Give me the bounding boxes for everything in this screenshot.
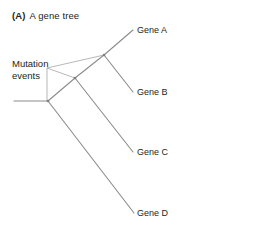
tree-diagram — [0, 0, 262, 233]
branch-n1-to-c — [75, 78, 133, 152]
branch-n2-to-b — [104, 55, 133, 92]
branch-n2-to-a — [104, 30, 133, 55]
branch-root-to-d — [48, 101, 134, 213]
root-node — [47, 100, 50, 103]
internal-node-2 — [103, 54, 106, 57]
leaf-label-gene-d: Gene D — [137, 208, 168, 219]
mutation-events-label: Mutation events — [12, 58, 48, 81]
branch-root-to-n1 — [48, 78, 75, 101]
leaf-label-gene-c: Gene C — [137, 147, 168, 158]
leaf-label-gene-a: Gene A — [137, 25, 167, 36]
leaf-label-gene-b: Gene B — [137, 87, 168, 98]
leader-to-n1 — [47, 68, 75, 78]
internal-node-1 — [74, 77, 77, 80]
gene-tree-figure: (A)A gene tree Mutation events Gene A Ge… — [0, 0, 262, 233]
